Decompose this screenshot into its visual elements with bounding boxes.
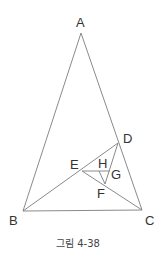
segment-ac xyxy=(81,33,142,210)
label-f: F xyxy=(97,186,105,201)
geometry-diagram: A B C D E H G F 그림 4-38 xyxy=(0,0,163,264)
triangle-lines xyxy=(23,33,142,211)
segment-ab xyxy=(23,33,81,211)
figure-caption: 그림 4-38 xyxy=(56,238,100,249)
segment-bc xyxy=(23,210,142,211)
label-d: D xyxy=(123,131,132,146)
label-b: B xyxy=(9,213,18,228)
label-g: G xyxy=(111,167,121,182)
label-a: A xyxy=(76,15,85,30)
label-e: E xyxy=(70,157,79,172)
label-h: H xyxy=(98,156,107,171)
label-c: C xyxy=(145,213,154,228)
